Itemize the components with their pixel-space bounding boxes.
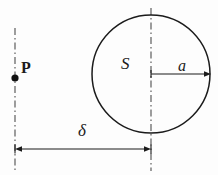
point-marker-p [11,74,18,81]
label-distance-delta: δ [78,122,86,139]
label-radius-a: a [178,58,186,74]
distance-arrowhead-left [15,146,22,152]
figure-canvas [0,0,218,175]
label-point-p: P [21,60,31,76]
distance-arrowhead-right [144,146,151,152]
label-region-s: S [121,55,130,72]
geometry-figure: P S a δ [0,0,218,175]
